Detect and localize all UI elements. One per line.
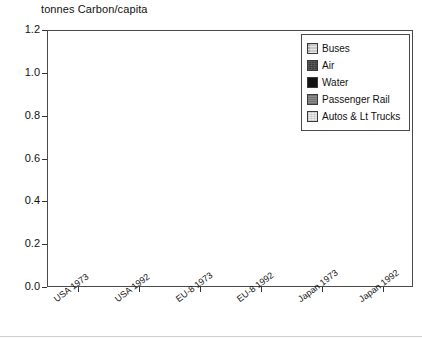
y-tick-label: 0.4: [14, 194, 40, 206]
legend-label: Air: [322, 61, 334, 71]
rail-swatch: [307, 94, 318, 105]
y-tick-label: 0.0: [14, 280, 40, 292]
y-tick-label: 1.0: [14, 66, 40, 78]
y-tick-mark: [42, 159, 47, 160]
y-tick-label: 0.6: [14, 152, 40, 164]
y-tick-mark: [42, 201, 47, 202]
legend-label: Passenger Rail: [322, 95, 390, 105]
y-tick-mark: [42, 73, 47, 74]
legend-item-passenger-rail: Passenger Rail: [307, 91, 405, 108]
legend-label: Water: [322, 78, 348, 88]
y-tick-mark: [42, 244, 47, 245]
legend-label: Buses: [322, 44, 350, 54]
legend-item-buses: Buses: [307, 40, 405, 57]
legend-item-air: Air: [307, 57, 405, 74]
page-bottom-rule: [0, 336, 422, 337]
chart-axis-title: tonnes Carbon/capita: [41, 3, 148, 15]
y-axis: 0.00.20.40.60.81.01.2: [14, 30, 47, 287]
y-tick-mark: [42, 287, 47, 288]
chart-legend: BusesAirWaterPassenger RailAutos & Lt Tr…: [301, 34, 410, 131]
buses-swatch: [307, 43, 318, 54]
y-tick-label: 1.2: [14, 23, 40, 35]
y-tick-mark: [42, 30, 47, 31]
autos-swatch: [307, 111, 318, 122]
y-tick-mark: [42, 116, 47, 117]
carbon-per-capita-chart: tonnes Carbon/capita 0.00.20.40.60.81.01…: [0, 0, 422, 339]
legend-label: Autos & Lt Trucks: [322, 112, 400, 122]
y-tick-label: 0.2: [14, 237, 40, 249]
air-swatch: [307, 60, 318, 71]
legend-item-water: Water: [307, 74, 405, 91]
legend-item-autos-lt-trucks: Autos & Lt Trucks: [307, 108, 405, 125]
water-swatch: [307, 77, 318, 88]
y-tick-label: 0.8: [14, 109, 40, 121]
